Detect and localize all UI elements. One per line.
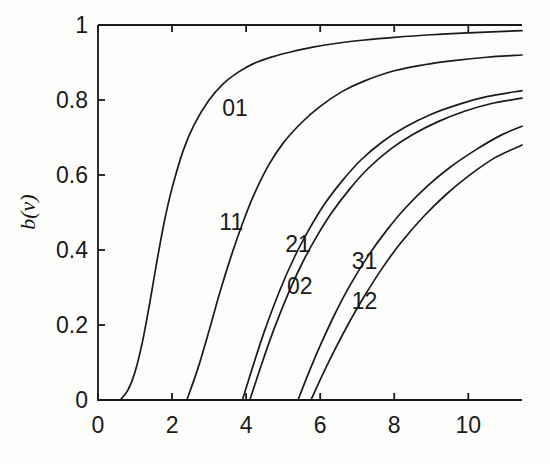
x-tick-label: 4 (240, 412, 253, 439)
curve-label-21: 21 (285, 231, 311, 258)
curve-31 (298, 126, 522, 400)
axis-frame (98, 25, 522, 400)
x-tick-label: 8 (388, 412, 401, 439)
curve-12 (311, 145, 522, 400)
curve-paths (120, 31, 522, 400)
y-tick-label: 0.6 (28, 162, 88, 189)
curve-label-12: 12 (352, 287, 378, 314)
x-tick-label: 0 (92, 412, 105, 439)
x-tick-label: 6 (314, 412, 327, 439)
y-axis-title: b(v) (15, 182, 41, 242)
curve-label-11: 11 (219, 208, 243, 235)
curve-label-01: 01 (222, 94, 248, 121)
curve-label-02: 02 (287, 272, 313, 299)
y-tick-label: 0.4 (28, 237, 88, 264)
figure-container: b(v) 00.20.40.60.81 0246810 011121023112 (0, 0, 550, 464)
curve-label-31: 31 (352, 248, 378, 275)
x-tick-label: 2 (166, 412, 179, 439)
axis-ticks (98, 25, 468, 400)
y-tick-label: 0 (28, 387, 88, 414)
y-tick-label: 1 (28, 12, 88, 39)
y-tick-label: 0.2 (28, 312, 88, 339)
y-tick-label: 0.8 (28, 87, 88, 114)
x-tick-label: 10 (456, 412, 482, 439)
